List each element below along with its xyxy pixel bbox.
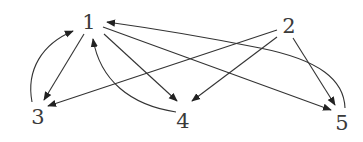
node-4: 4 (176, 111, 189, 132)
node-5: 5 (335, 113, 348, 134)
edge-2-to-3 (48, 30, 277, 106)
edge-2-to-4 (192, 37, 277, 101)
node-1: 1 (82, 12, 95, 33)
edge-1-to-3 (44, 34, 84, 100)
edge-2-to-5 (293, 38, 335, 105)
edge-4-to-1 (93, 39, 176, 112)
edge-1-to-4 (104, 34, 177, 101)
edge-3-to-1 (31, 31, 73, 102)
node-2: 2 (282, 16, 295, 37)
node-3: 3 (31, 107, 44, 128)
